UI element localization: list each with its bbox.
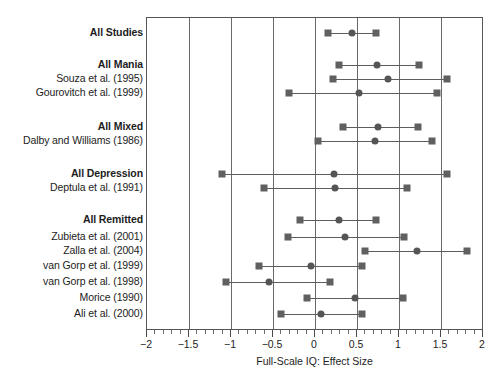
x-tick-minor — [322, 330, 323, 334]
x-tick-minor — [457, 330, 458, 334]
ci-lower-marker — [285, 90, 292, 97]
row-label-12: van Gorp et al. (1998) — [43, 275, 143, 287]
x-tick-label: −2 — [140, 338, 152, 350]
effect-size-marker — [331, 171, 338, 178]
ci-upper-marker — [401, 234, 408, 241]
x-tick-minor — [180, 330, 181, 334]
x-tick-minor — [205, 330, 206, 334]
x-tick-major — [398, 330, 399, 337]
effect-size-marker — [348, 30, 355, 37]
x-tick-label: −0.5 — [262, 338, 283, 350]
x-tick-label: −1 — [224, 338, 236, 350]
row-label-0: All Studies — [90, 26, 143, 38]
effect-size-marker — [355, 90, 362, 97]
row-label-2: Souza et al. (1995) — [56, 72, 143, 84]
x-tick-minor — [264, 330, 265, 334]
x-tick-minor — [154, 330, 155, 334]
x-tick-minor — [255, 330, 256, 334]
confidence-interval-line — [226, 282, 330, 283]
row-label-13: Morice (1990) — [80, 291, 143, 303]
ci-lower-marker — [315, 138, 322, 145]
ci-lower-marker — [222, 279, 229, 286]
x-tick-label: −1.5 — [178, 338, 199, 350]
ci-upper-marker — [373, 30, 380, 37]
row-label-1: All Mania — [98, 58, 143, 70]
effect-size-marker — [307, 263, 314, 270]
ci-lower-marker — [339, 124, 346, 131]
x-tick-label: 1.5 — [433, 338, 448, 350]
x-tick-minor — [432, 330, 433, 334]
effect-size-marker — [265, 279, 272, 286]
ci-upper-marker — [327, 279, 334, 286]
ci-upper-marker — [359, 263, 366, 270]
ci-upper-marker — [433, 90, 440, 97]
effect-size-marker — [374, 62, 381, 69]
ci-lower-marker — [361, 248, 368, 255]
ci-upper-marker — [428, 138, 435, 145]
x-tick-major — [272, 330, 273, 337]
row-label-6: All Depression — [71, 167, 143, 179]
gridline — [483, 18, 484, 329]
x-tick-major — [356, 330, 357, 337]
x-tick-minor — [373, 330, 374, 334]
x-tick-minor — [339, 330, 340, 334]
row-label-9: Zubieta et al. (2001) — [51, 230, 143, 242]
x-axis-title: Full-Scale IQ: Effect Size — [146, 355, 483, 367]
x-tick-minor — [331, 330, 332, 334]
x-tick-minor — [423, 330, 424, 334]
ci-lower-marker — [303, 295, 310, 302]
ci-upper-marker — [359, 311, 366, 318]
row-label-11: van Gorp et al. (1999) — [43, 259, 143, 271]
effect-size-marker — [385, 76, 392, 83]
row-label-14: Ali et al. (2000) — [74, 307, 143, 319]
ci-upper-marker — [464, 248, 471, 255]
x-tick-minor — [196, 330, 197, 334]
ci-lower-marker — [260, 185, 267, 192]
x-tick-minor — [390, 330, 391, 334]
x-tick-major — [188, 330, 189, 337]
confidence-interval-line — [289, 93, 437, 94]
row-label-7: Deptula et al. (1991) — [50, 181, 143, 193]
gridline — [147, 18, 148, 329]
ci-lower-marker — [255, 263, 262, 270]
ci-lower-marker — [285, 234, 292, 241]
ci-upper-marker — [416, 62, 423, 69]
x-tick-minor — [163, 330, 164, 334]
x-axis: Full-Scale IQ: Effect Size −2−1.5−1−0.50… — [146, 330, 483, 377]
ci-lower-marker — [335, 62, 342, 69]
row-label-10: Zalla et al. (2004) — [63, 244, 143, 256]
x-tick-label: 0 — [311, 338, 317, 350]
effect-size-marker — [332, 185, 339, 192]
x-tick-major — [440, 330, 441, 337]
x-tick-minor — [280, 330, 281, 334]
x-tick-label: 1 — [395, 338, 401, 350]
ci-lower-marker — [277, 311, 284, 318]
effect-size-marker — [372, 138, 379, 145]
x-tick-minor — [415, 330, 416, 334]
effect-size-marker — [375, 124, 382, 131]
x-tick-major — [230, 330, 231, 337]
ci-upper-marker — [443, 76, 450, 83]
x-tick-minor — [306, 330, 307, 334]
ci-upper-marker — [415, 124, 422, 131]
effect-size-marker — [342, 234, 349, 241]
x-tick-minor — [406, 330, 407, 334]
x-tick-minor — [474, 330, 475, 334]
effect-size-marker — [414, 248, 421, 255]
forest-plot: All StudiesAll ManiaSouza et al. (1995)G… — [0, 0, 503, 377]
x-tick-minor — [381, 330, 382, 334]
x-tick-minor — [171, 330, 172, 334]
x-tick-minor — [222, 330, 223, 334]
effect-size-marker — [317, 311, 324, 318]
x-tick-minor — [348, 330, 349, 334]
row-label-5: Dalby and Williams (1986) — [23, 134, 143, 146]
plot-area — [146, 17, 483, 330]
ci-upper-marker — [404, 185, 411, 192]
row-label-column: All StudiesAll ManiaSouza et al. (1995)G… — [0, 0, 143, 330]
ci-upper-marker — [373, 217, 380, 224]
x-tick-label: 0.5 — [349, 338, 364, 350]
row-label-8: All Remitted — [83, 213, 143, 225]
x-tick-major — [314, 330, 315, 337]
x-tick-minor — [465, 330, 466, 334]
x-tick-minor — [297, 330, 298, 334]
